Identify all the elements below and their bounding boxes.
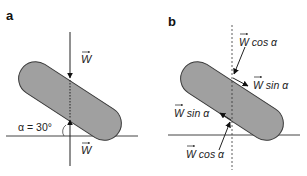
panel-b: b W cos α W sin α W sin α bbox=[168, 14, 300, 170]
angle-label: α = 30° bbox=[18, 121, 52, 133]
force-label-bottom: W bbox=[81, 143, 93, 156]
svg-text:W cos α: W cos α bbox=[239, 36, 278, 48]
svg-text:W: W bbox=[81, 53, 93, 65]
diagram-canvas: a W W α = 30° b bbox=[0, 0, 307, 176]
svg-text:W sin α: W sin α bbox=[174, 107, 210, 119]
angle-arc bbox=[63, 125, 66, 136]
panel-b-label: b bbox=[168, 14, 176, 29]
normal-component-arrow-bottom bbox=[219, 122, 230, 150]
label-w-sin-top: W sin α bbox=[253, 77, 289, 91]
panel-a: a W W α = 30° bbox=[6, 8, 138, 166]
force-label-top: W bbox=[81, 52, 93, 65]
label-w-cos-bottom: W cos α bbox=[186, 146, 225, 160]
label-w-sin-bottom: W sin α bbox=[174, 105, 210, 119]
svg-text:W: W bbox=[81, 144, 93, 156]
normal-component-arrow-top bbox=[234, 47, 245, 74]
label-w-cos-top: W cos α bbox=[239, 34, 278, 48]
svg-text:W cos α: W cos α bbox=[186, 148, 225, 160]
panel-a-label: a bbox=[6, 8, 14, 23]
svg-text:W sin α: W sin α bbox=[253, 79, 289, 91]
